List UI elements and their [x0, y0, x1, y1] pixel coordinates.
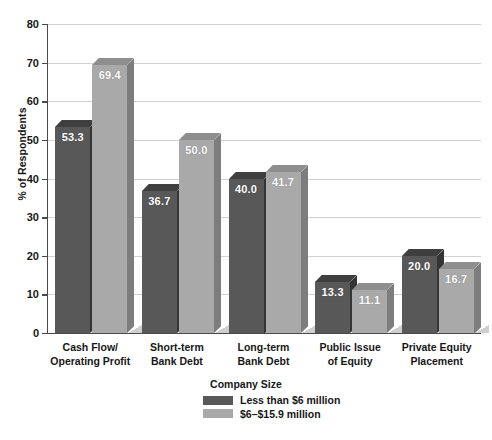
- x-category-label-line: of Equity: [307, 355, 394, 369]
- x-category-label-line: Short-term: [134, 341, 221, 355]
- bar-front-face: [92, 65, 127, 333]
- bar-0-2: 40.0: [229, 179, 264, 334]
- x-category-label: Private EquityPlacement: [393, 341, 480, 368]
- bar-front-face: [55, 127, 90, 333]
- bar-1-2: 41.7: [266, 172, 301, 333]
- bar-1-3: 11.1: [352, 290, 387, 333]
- bar-value-label: 50.0: [179, 144, 214, 156]
- x-category-label: Long-termBank Debt: [220, 341, 307, 368]
- bar-value-label: 41.7: [266, 176, 301, 188]
- legend-item: Less than $6 million: [0, 394, 492, 406]
- legend-item: $6–$15.9 million: [0, 408, 492, 420]
- bar-side-face: [214, 133, 221, 333]
- y-tick-mark: [42, 140, 48, 141]
- bar-value-label: 69.4: [92, 69, 127, 81]
- x-category-label: Public Issueof Equity: [307, 341, 394, 368]
- bar-1-4: 16.7: [439, 269, 474, 334]
- legend-swatch: [203, 409, 233, 418]
- bar-front-face: [179, 140, 214, 333]
- bar-top-face: [402, 249, 444, 256]
- legend-label: $6–$15.9 million: [240, 408, 321, 420]
- bar-side-face: [127, 58, 134, 333]
- y-tick-label: 70: [27, 57, 39, 69]
- bar-0-0: 53.3: [55, 127, 90, 333]
- y-tick-mark: [42, 24, 48, 25]
- x-category-label-line: Cash Flow/: [47, 341, 134, 355]
- y-tick-label: 20: [27, 250, 39, 262]
- bar-top-face: [92, 58, 134, 65]
- bar-0-4: 20.0: [402, 256, 437, 333]
- bar-top-face: [352, 283, 394, 290]
- bar-side-face: [474, 262, 481, 333]
- y-tick-label: 80: [27, 18, 39, 30]
- y-tick-mark: [42, 101, 48, 102]
- x-category-label-line: Long-term: [220, 341, 307, 355]
- bar-value-label: 40.0: [229, 183, 264, 195]
- bar-value-label: 36.7: [142, 195, 177, 207]
- bar-top-face: [55, 120, 97, 127]
- x-category-label: Cash Flow/Operating Profit: [47, 341, 134, 368]
- bar-value-label: 53.3: [55, 131, 90, 143]
- x-category-label: Short-termBank Debt: [134, 341, 221, 368]
- bar-front-face: [229, 179, 264, 334]
- y-tick-label: 10: [27, 288, 39, 300]
- bar-top-face: [229, 172, 271, 179]
- y-tick-label: 50: [27, 134, 39, 146]
- bar-value-label: 11.1: [352, 294, 387, 306]
- bar-0-3: 13.3: [315, 282, 350, 333]
- y-tick-mark: [42, 217, 48, 218]
- bar-1-0: 69.4: [92, 65, 127, 333]
- y-tick-mark: [42, 256, 48, 257]
- y-tick-mark: [42, 294, 48, 295]
- y-tick-mark: [42, 333, 48, 334]
- legend-label: Less than $6 million: [240, 394, 340, 406]
- legend-title: Company Size: [0, 378, 492, 390]
- x-category-label-line: Bank Debt: [134, 355, 221, 369]
- bar-side-face: [301, 165, 308, 333]
- bar-top-face: [315, 275, 357, 282]
- x-category-label-line: Bank Debt: [220, 355, 307, 369]
- x-category-label-line: Placement: [393, 355, 480, 369]
- legend-swatch: [203, 396, 233, 405]
- bar-top-face: [266, 165, 308, 172]
- chart-legend: Company Size Less than $6 million$6–$15.…: [0, 378, 492, 421]
- bar-value-label: 16.7: [439, 273, 474, 285]
- bar-front-face: [142, 191, 177, 333]
- bar-front-face: [266, 172, 301, 333]
- gridline: [48, 24, 481, 25]
- y-tick-mark: [42, 179, 48, 180]
- legend-item-group: Less than $6 million$6–$15.9 million: [0, 394, 492, 420]
- bar-chart: % of Respondents 0102030405060708053.369…: [0, 0, 492, 440]
- bar-top-face: [179, 133, 221, 140]
- y-tick-label: 0: [33, 327, 39, 339]
- y-tick-label: 40: [27, 173, 39, 185]
- plot-area: 0102030405060708053.369.436.750.040.041.…: [47, 24, 481, 334]
- x-category-label-line: Private Equity: [393, 341, 480, 355]
- bar-top-face: [439, 262, 481, 269]
- y-tick-mark: [42, 63, 48, 64]
- bar-value-label: 20.0: [402, 260, 437, 272]
- bar-0-1: 36.7: [142, 191, 177, 333]
- bar-value-label: 13.3: [315, 286, 350, 298]
- x-category-label-line: Operating Profit: [47, 355, 134, 369]
- bar-side-face: [387, 283, 394, 333]
- y-tick-label: 30: [27, 211, 39, 223]
- bar-1-1: 50.0: [179, 140, 214, 333]
- bar-top-face: [142, 184, 184, 191]
- y-tick-label: 60: [27, 95, 39, 107]
- x-category-label-line: Public Issue: [307, 341, 394, 355]
